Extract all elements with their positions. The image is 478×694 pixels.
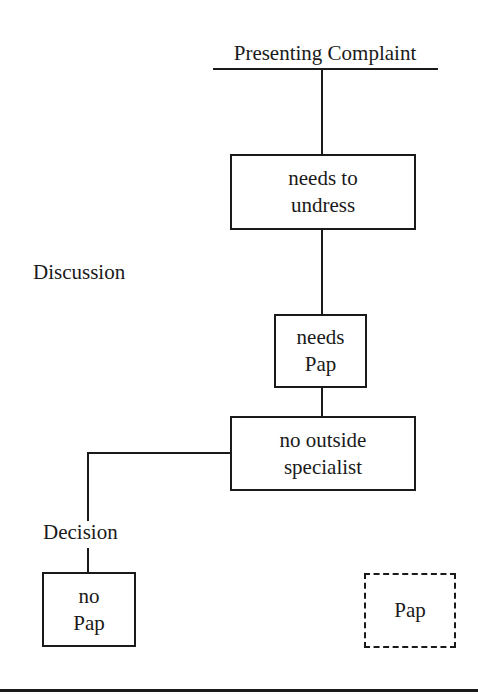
bottom-rule bbox=[0, 689, 478, 692]
connector-decision-to-no-pap bbox=[87, 548, 89, 573]
node-needs-pap: needs Pap bbox=[274, 314, 367, 388]
node-label-line: specialist bbox=[284, 454, 362, 481]
node-label-line: no outside bbox=[280, 427, 367, 454]
diagram-title: Presenting Complaint bbox=[213, 40, 437, 66]
node-label-line: Pap bbox=[305, 351, 337, 378]
node-label-line: no bbox=[79, 583, 100, 610]
connector-down-to-decision bbox=[87, 452, 89, 521]
node-label-line: Pap bbox=[73, 610, 105, 637]
node-no-outside-specialist: no outside specialist bbox=[230, 416, 416, 491]
node-needs-to-undress: needs to undress bbox=[230, 154, 416, 230]
node-no-pap: no Pap bbox=[42, 572, 136, 647]
connector-needs-pap-to-no-specialist bbox=[321, 387, 323, 417]
stage-label-discussion: Discussion bbox=[33, 259, 125, 285]
connector-specialist-left bbox=[88, 452, 231, 454]
node-label-line: undress bbox=[291, 192, 355, 219]
node-label-line: needs bbox=[297, 324, 345, 351]
connector-undress-to-needs-pap bbox=[321, 229, 323, 315]
node-pap-alternative: Pap bbox=[364, 573, 456, 648]
title-underline bbox=[213, 68, 438, 70]
node-label-line: Pap bbox=[394, 597, 426, 624]
connector-title-to-undress bbox=[321, 69, 323, 155]
node-label-line: needs to bbox=[288, 165, 357, 192]
stage-label-decision: Decision bbox=[43, 519, 118, 545]
